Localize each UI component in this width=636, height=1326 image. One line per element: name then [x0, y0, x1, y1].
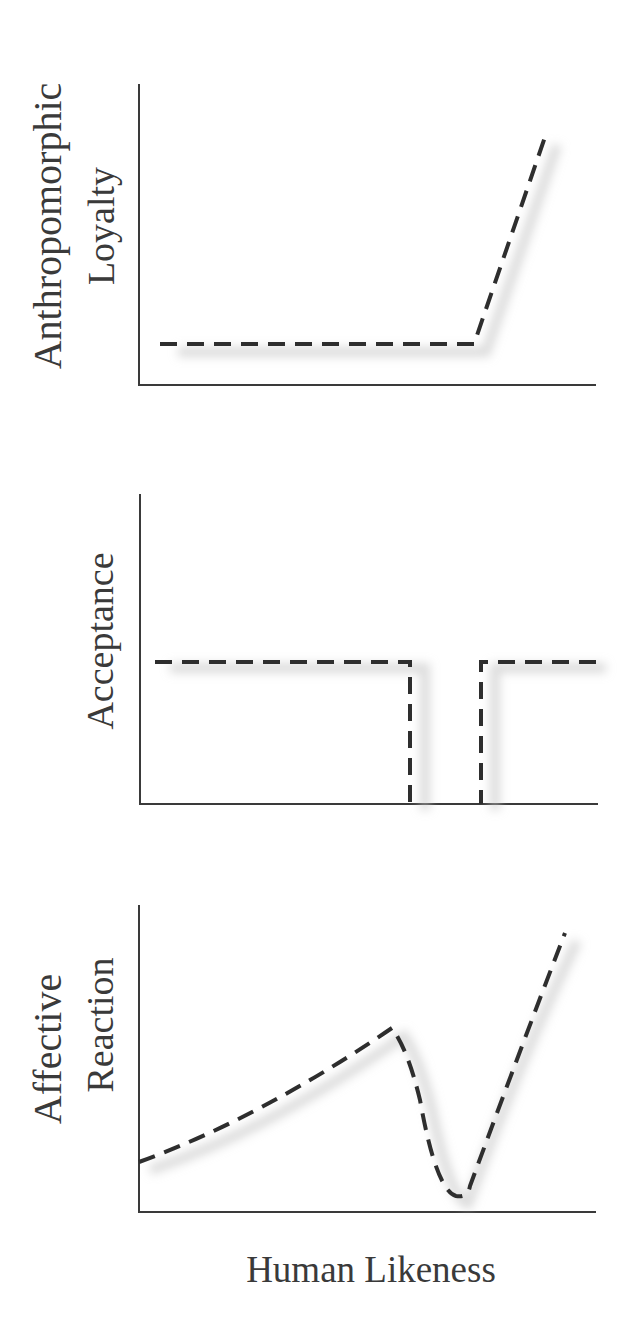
x-axis-label: Human Likeness: [0, 1248, 636, 1291]
series-line: [139, 933, 565, 1196]
chart-panel-affective-reaction: Affective Reaction Human Likeness: [0, 0, 636, 1326]
plot-area: [0, 0, 636, 1326]
